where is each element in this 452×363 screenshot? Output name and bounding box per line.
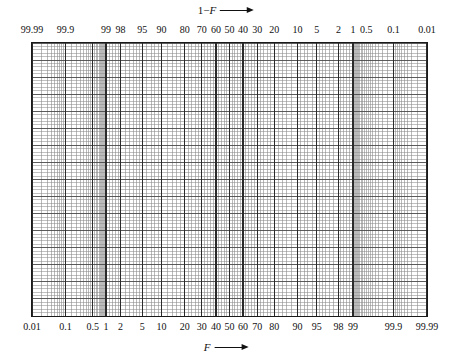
axis-tick-label: 90 xyxy=(156,24,166,36)
axis-tick-label: 2 xyxy=(336,24,341,36)
axis-tick-label: 50 xyxy=(225,321,235,333)
axis-tick-label: 90 xyxy=(293,321,303,333)
axis-tick-label: 10 xyxy=(293,24,303,36)
axis-tick-label: 1 xyxy=(351,24,356,36)
axis-tick-label: 0.01 xyxy=(23,321,41,333)
axis-tick-label: 95 xyxy=(312,321,322,333)
axis-tick-label: 80 xyxy=(180,24,190,36)
bottom-axis-tick-labels: 0.010.10.512510203040506070809095989999.… xyxy=(0,321,452,335)
axis-tick-label: 60 xyxy=(238,321,248,333)
axis-tick-label: 99.9 xyxy=(57,24,75,36)
axis-tick-label: 0.5 xyxy=(86,321,99,333)
axis-tick-label: 98 xyxy=(334,321,344,333)
axis-tick-label: 5 xyxy=(314,24,319,36)
axis-tick-label: 95 xyxy=(137,24,147,36)
probability-grid xyxy=(32,43,427,316)
top-axis-title: 1−F xyxy=(198,4,254,16)
top-axis-tick-labels: 99.9999.99998959080706050403020105210.50… xyxy=(0,24,452,38)
axis-tick-label: 80 xyxy=(269,321,279,333)
axis-tick-label: 98 xyxy=(115,24,125,36)
axis-tick-label: 10 xyxy=(156,321,166,333)
axis-tick-label: 0.1 xyxy=(59,321,72,333)
axis-tick-label: 99.99 xyxy=(21,24,44,36)
top-axis-title-prefix: 1− xyxy=(198,4,210,16)
axis-tick-label: 0.01 xyxy=(418,24,436,36)
top-axis-title-text: 1−F xyxy=(198,4,216,16)
axis-tick-label: 60 xyxy=(211,24,221,36)
axis-tick-label: 99.99 xyxy=(416,321,439,333)
axis-tick-label: 2 xyxy=(118,321,123,333)
axis-tick-label: 70 xyxy=(252,321,262,333)
axis-tick-label: 40 xyxy=(211,321,221,333)
probability-paper-figure: 1−F 99.9999.9999895908070605040302010521… xyxy=(0,0,452,363)
axis-tick-label: 1 xyxy=(103,321,108,333)
axis-tick-label: 0.1 xyxy=(387,24,400,36)
probability-grid-panel xyxy=(31,42,428,317)
axis-tick-label: 99 xyxy=(101,24,111,36)
axis-tick-label: 30 xyxy=(252,24,262,36)
axis-tick-label: 30 xyxy=(197,321,207,333)
axis-tick-label: 20 xyxy=(180,321,190,333)
right-arrow-icon xyxy=(220,7,254,14)
top-axis-title-symbol: F xyxy=(209,4,216,16)
axis-tick-label: 40 xyxy=(238,24,248,36)
axis-tick-label: 99 xyxy=(348,321,358,333)
axis-tick-label: 50 xyxy=(225,24,235,36)
axis-tick-label: 99.9 xyxy=(385,321,403,333)
bottom-axis-title: F xyxy=(204,341,249,353)
axis-tick-label: 70 xyxy=(197,24,207,36)
axis-tick-label: 5 xyxy=(140,321,145,333)
right-arrow-icon xyxy=(214,344,248,351)
axis-tick-label: 20 xyxy=(269,24,279,36)
axis-tick-label: 0.5 xyxy=(360,24,373,36)
bottom-axis-title-symbol: F xyxy=(204,341,211,353)
